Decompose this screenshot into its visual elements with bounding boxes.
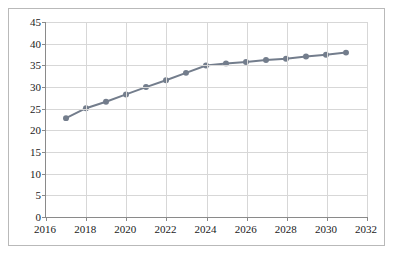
x-axis-tickmark <box>46 217 47 221</box>
y-axis-tickmark <box>42 109 46 110</box>
y-axis-tick-labels: 051015202530354045 <box>0 22 41 218</box>
gridline-vertical <box>166 22 167 217</box>
gridline-vertical <box>367 22 368 217</box>
x-axis-tickmark <box>287 217 288 221</box>
data-point-marker <box>103 99 109 105</box>
y-axis-tick-label: 10 <box>30 168 41 179</box>
x-axis-tick-label: 2028 <box>275 224 297 235</box>
y-axis-tick-label: 40 <box>30 38 41 49</box>
y-axis-tickmark <box>42 174 46 175</box>
x-axis-tickmark <box>166 217 167 221</box>
y-axis-tickmark <box>42 195 46 196</box>
y-axis-tick-label: 25 <box>30 103 41 114</box>
y-axis-tickmark <box>42 130 46 131</box>
x-axis-tickmark <box>126 217 127 221</box>
data-point-marker <box>263 57 269 63</box>
x-axis-tick-label: 2018 <box>74 224 96 235</box>
y-axis-tickmark <box>42 44 46 45</box>
gridline-vertical <box>86 22 87 217</box>
data-point-marker <box>183 70 189 76</box>
gridline-vertical <box>247 22 248 217</box>
y-axis-tick-label: 0 <box>36 212 42 223</box>
x-axis-tick-label: 2032 <box>355 224 377 235</box>
line-chart: 051015202530354045 201620182020202220242… <box>0 0 398 260</box>
y-axis-tick-label: 35 <box>30 60 41 71</box>
y-axis-tickmark <box>42 22 46 23</box>
gridline-vertical <box>287 22 288 217</box>
data-point-marker <box>343 50 349 56</box>
x-axis-tick-label: 2026 <box>235 224 257 235</box>
data-point-marker <box>63 115 69 121</box>
y-axis-tick-label: 20 <box>30 125 41 136</box>
y-axis-tick-label: 5 <box>36 190 42 201</box>
x-axis-tick-label: 2030 <box>315 224 337 235</box>
x-axis-tick-label: 2016 <box>34 224 56 235</box>
y-axis-tickmark <box>42 87 46 88</box>
x-axis-tick-label: 2022 <box>154 224 176 235</box>
y-axis-tick-label: 45 <box>30 17 41 28</box>
x-axis-tick-label: 2024 <box>195 224 217 235</box>
x-axis-tickmark <box>367 217 368 221</box>
gridline-vertical <box>126 22 127 217</box>
x-axis-tick-labels: 201620182020202220242026202820302032 <box>45 224 367 240</box>
y-axis-tick-label: 30 <box>30 82 41 93</box>
x-axis-tickmark <box>327 217 328 221</box>
data-point-marker <box>303 54 309 60</box>
gridline-vertical <box>327 22 328 217</box>
x-axis-tickmark <box>247 217 248 221</box>
x-axis-tickmark <box>207 217 208 221</box>
x-axis-tickmark <box>86 217 87 221</box>
plot-area <box>45 22 367 218</box>
gridline-vertical <box>207 22 208 217</box>
y-axis-tick-label: 15 <box>30 147 41 158</box>
x-axis-tick-label: 2020 <box>114 224 136 235</box>
y-axis-tickmark <box>42 65 46 66</box>
chart-figure: 051015202530354045 201620182020202220242… <box>0 0 398 260</box>
y-axis-tickmark <box>42 152 46 153</box>
